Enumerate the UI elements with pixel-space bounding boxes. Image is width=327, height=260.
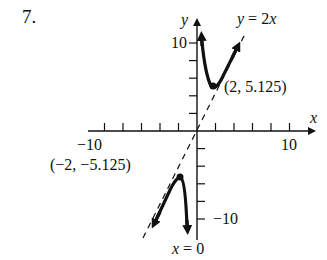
curve-branch-negative: [156, 178, 187, 226]
asymptote-slant-label: y = 2x: [237, 11, 276, 27]
x-axis: [88, 123, 314, 131]
point-max-label: (−2, −5.125): [50, 157, 131, 173]
x-tick-label-neg10: −10: [77, 137, 102, 153]
x-tick-label-10: 10: [281, 137, 297, 153]
point-local-min: [210, 83, 217, 90]
y-tick-label-neg10: −10: [213, 211, 238, 227]
point-local-max: [177, 174, 184, 181]
x-axis-label: x: [310, 110, 317, 126]
y-axis-label: y: [181, 12, 188, 28]
asymptote-vertical-label: x = 0: [172, 241, 204, 257]
y-tick-label-10: 10: [171, 35, 187, 51]
point-min-label: (2, 5.125): [224, 79, 287, 95]
graph: [0, 0, 327, 260]
